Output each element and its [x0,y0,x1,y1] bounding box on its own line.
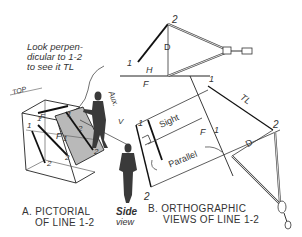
pictorial-line-1 [32,131,45,163]
f1-fold-line [190,76,233,176]
side-view-label: Side [116,207,137,217]
note-leader [80,66,104,106]
divider2-handle [285,221,291,229]
label-fold-1: 1 [214,126,219,135]
label-top-1: 1 [127,59,132,68]
label-pic-2b: 2 [65,154,69,162]
label-top-d: D [164,43,171,52]
label-aux-v: V [118,118,123,126]
caption-b-line1: B. ORTHOGRAPHIC [148,203,259,214]
label-fold-f: F [200,128,206,137]
label-top-2: 2 [172,15,178,25]
label-h: H [146,66,153,75]
caption-b: B. ORTHOGRAPHIC VIEWS OF LINE 1-2 [148,203,259,225]
label-pic-f1: F [56,132,62,141]
label-front-1: 1 [138,119,143,128]
divider-hinge [223,47,231,54]
caption-b-line2: VIEWS OF LINE 1-2 [148,214,259,225]
divider2-hinge [278,201,286,213]
label-pic-aux-2b: 2 [94,148,98,156]
caption-a-line2: OF LINE 1-2 [22,217,94,228]
label-aux-1: 1 [209,75,214,84]
label-aux-2: 2 [273,120,279,130]
diagram-canvas [0,0,302,237]
aux-true-length-line [208,86,273,130]
label-pic-1a: 1 [27,122,31,130]
note-line: to see it TL [27,62,83,72]
caption-a-line1: A. PICTORIAL [22,206,94,217]
side-viewer-figure [119,144,137,204]
label-front-2: 2 [144,192,150,202]
instruction-note: Look perpen- dicular to 1-2 to see it TL [27,42,83,72]
label-pic-1b: 1 [37,115,41,123]
caption-a: A. PICTORIAL OF LINE 1-2 [22,206,94,228]
side-view-label-2: view [116,218,134,227]
divider-handle [242,48,252,54]
label-f: F [143,80,149,89]
label-pic-aux-2: 2 [78,125,82,133]
front-view-edge [136,125,151,187]
label-pic-1c: 1 [63,135,67,143]
label-pic-aux-1: 1 [67,111,71,119]
label-pic-2a: 2 [47,160,51,168]
